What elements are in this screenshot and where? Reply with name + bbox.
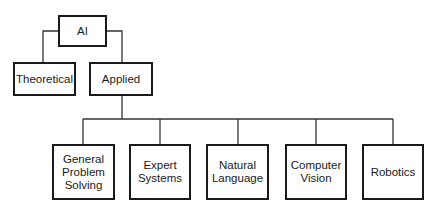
node-ai-label: AI bbox=[77, 25, 88, 38]
node-theoretical: Theoretical bbox=[13, 62, 76, 96]
node-nl-label: Natural Language bbox=[212, 159, 263, 185]
node-expert-label: Expert Systems bbox=[138, 159, 182, 185]
node-cv-label: Computer Vision bbox=[291, 159, 342, 185]
cv-line-2: Vision bbox=[300, 172, 331, 184]
node-ai: AI bbox=[58, 15, 107, 47]
gps-line-2: Problem bbox=[62, 166, 105, 178]
node-natural-language: Natural Language bbox=[206, 144, 269, 200]
cv-line-1: Computer bbox=[291, 159, 342, 171]
node-expert-systems: Expert Systems bbox=[129, 144, 191, 200]
node-robotics: Robotics bbox=[362, 144, 424, 200]
node-theoretical-label: Theoretical bbox=[16, 73, 73, 86]
node-robotics-label: Robotics bbox=[371, 166, 416, 179]
expert-line-1: Expert bbox=[143, 159, 176, 171]
nl-line-2: Language bbox=[212, 172, 263, 184]
edge-ai-theoretical bbox=[43, 31, 58, 62]
expert-line-2: Systems bbox=[138, 172, 182, 184]
node-applied: Applied bbox=[89, 62, 153, 96]
node-computer-vision: Computer Vision bbox=[285, 144, 347, 200]
node-general-problem-solving: General Problem Solving bbox=[52, 144, 115, 200]
nl-line-1: Natural bbox=[219, 159, 256, 171]
edge-ai-applied bbox=[107, 31, 122, 62]
node-gps-label: General Problem Solving bbox=[62, 153, 105, 192]
gps-line-1: General bbox=[63, 153, 104, 165]
gps-line-3: Solving bbox=[65, 179, 103, 191]
node-applied-label: Applied bbox=[102, 73, 140, 86]
